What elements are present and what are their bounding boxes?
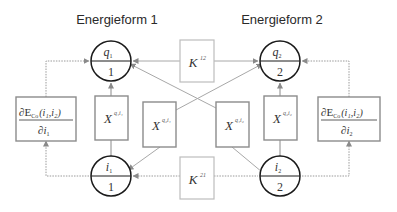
node-i2-index: 2 [277, 180, 283, 194]
node-i2: i2 2 [260, 156, 300, 196]
derivative-box-right: ∂ECo(i₁,i₂) ∂i2 [318, 97, 380, 141]
k12-box: K 12 [180, 40, 214, 82]
derivative-left-numerator: ∂ECo(i₁,i₂) [19, 106, 62, 119]
x-q1i1-box: X q₁i₁ [95, 96, 128, 140]
k21-superscript: 21 [200, 172, 206, 178]
arrow-dE1-to-q1 [46, 61, 89, 97]
x-q1i1-base: X [103, 111, 113, 126]
node-i1-index: 1 [108, 180, 114, 194]
title-energieform-1: Energieform 1 [76, 12, 158, 27]
arrow-xq2i1-to-i1 [128, 147, 160, 170]
k21-box: K 21 [180, 157, 214, 199]
x-q2i1-box: X q₂i₁ [143, 102, 176, 147]
x-q2i1-superscript: q₂i₁ [162, 117, 171, 123]
node-q2: q2 2 [260, 41, 300, 81]
x-q2i2-base: X [272, 111, 282, 126]
x-q2i1-base: X [151, 118, 161, 133]
line-i2-to-xq1i2 [232, 147, 262, 172]
k12-superscript: 12 [200, 55, 206, 61]
x-q1i2-base: X [224, 118, 234, 133]
node-q1: q1 1 [91, 41, 131, 81]
energy-form-coupling-diagram: Energieform 1 Energieform 2 K 12 [0, 0, 397, 212]
arrow-i2-to-dE2 [302, 141, 349, 176]
k21-base: K [188, 172, 199, 187]
x-q2i2-superscript: q₂i₂ [283, 110, 292, 116]
arrow-dE2-to-q2 [302, 61, 349, 97]
k12-base: K [188, 55, 199, 70]
derivative-right-numerator: ∂ECo(i₁,i₂) [321, 106, 364, 119]
derivative-box-left: ∂ECo(i₁,i₂) ∂i1 [16, 97, 76, 141]
node-q1-index: 1 [108, 65, 114, 79]
node-i1: i1 1 [91, 156, 131, 196]
x-q1i2-box: X q₁i₂ [216, 102, 249, 147]
node-q2-index: 2 [277, 65, 283, 79]
x-q1i2-superscript: q₁i₂ [235, 117, 244, 123]
arrow-i1-to-dE1 [46, 141, 89, 176]
x-q2i2-box: X q₂i₂ [264, 96, 297, 140]
title-energieform-2: Energieform 2 [241, 12, 323, 27]
x-q1i1-superscript: q₁i₁ [114, 110, 123, 116]
